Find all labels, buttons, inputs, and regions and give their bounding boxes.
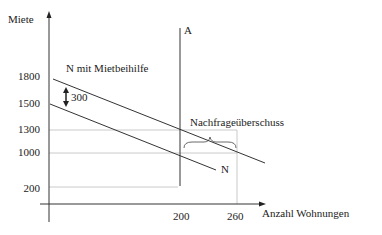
- y-tick-1300: 1300: [0, 123, 40, 135]
- x-tick-200: 200: [173, 210, 190, 222]
- excess-demand-label: Nachfrageüberschuss: [190, 116, 284, 128]
- y-tick-1800: 1800: [0, 70, 40, 82]
- supply-label: A: [184, 24, 192, 36]
- demand-line-n: [50, 104, 216, 170]
- shift-arrow-icon: [63, 87, 69, 107]
- y-tick-1000: 1000: [0, 146, 40, 158]
- y-tick-200: 200: [0, 182, 40, 194]
- y-axis-label: Miete: [8, 13, 34, 25]
- y-axis-arrow-icon: [47, 11, 52, 18]
- excess-brace-icon: [184, 137, 236, 148]
- shift-label: 300: [71, 91, 88, 103]
- x-axis-label: Anzahl Wohnungen: [262, 207, 349, 219]
- demand-label: N: [221, 163, 229, 175]
- x-tick-260: 260: [227, 210, 244, 222]
- y-tick-1500: 1500: [0, 97, 40, 109]
- demand-subsidy-label: N mit Mietbeihilfe: [66, 62, 148, 74]
- x-axis-arrow-icon: [259, 202, 266, 207]
